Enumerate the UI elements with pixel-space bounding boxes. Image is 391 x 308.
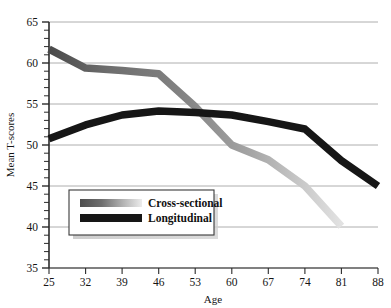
legend-label-cross-sectional: Cross-sectional <box>148 197 223 209</box>
y-major-ticks <box>42 22 49 268</box>
y-tick-label-55: 55 <box>27 98 39 110</box>
line-chart-plot: Cross-sectional Longitudinal 65 60 55 50… <box>0 0 391 308</box>
x-tick-labels: 25 32 39 46 53 60 67 74 81 88 <box>43 276 384 288</box>
x-tick-label-25: 25 <box>43 276 55 288</box>
y-tick-label-45: 45 <box>27 180 39 192</box>
y-tick-label-60: 60 <box>27 57 39 69</box>
y-tick-label-50: 50 <box>27 139 39 151</box>
y-axis-title: Mean T-scores <box>4 113 16 177</box>
legend: Cross-sectional Longitudinal <box>69 190 223 239</box>
x-tick-label-60: 60 <box>226 276 238 288</box>
x-tick-label-46: 46 <box>153 276 165 288</box>
x-tick-label-88: 88 <box>372 276 384 288</box>
legend-swatch-cross-sectional <box>80 199 142 207</box>
x-tick-label-32: 32 <box>80 276 92 288</box>
x-ticks <box>49 268 378 274</box>
y-tick-labels: 65 60 55 50 45 40 35 <box>27 16 39 274</box>
x-tick-label-53: 53 <box>189 276 201 288</box>
chart-container: Cross-sectional Longitudinal 65 60 55 50… <box>0 0 391 308</box>
x-tick-label-39: 39 <box>116 276 128 288</box>
y-tick-label-40: 40 <box>27 221 39 233</box>
y-tick-label-65: 65 <box>27 16 39 28</box>
y-tick-label-35: 35 <box>27 262 39 274</box>
x-tick-label-67: 67 <box>263 276 275 288</box>
x-axis-title: Age <box>204 293 222 305</box>
legend-label-longitudinal: Longitudinal <box>148 212 212 225</box>
x-tick-label-81: 81 <box>336 276 348 288</box>
x-tick-label-74: 74 <box>299 276 311 288</box>
legend-swatch-longitudinal <box>80 214 142 222</box>
